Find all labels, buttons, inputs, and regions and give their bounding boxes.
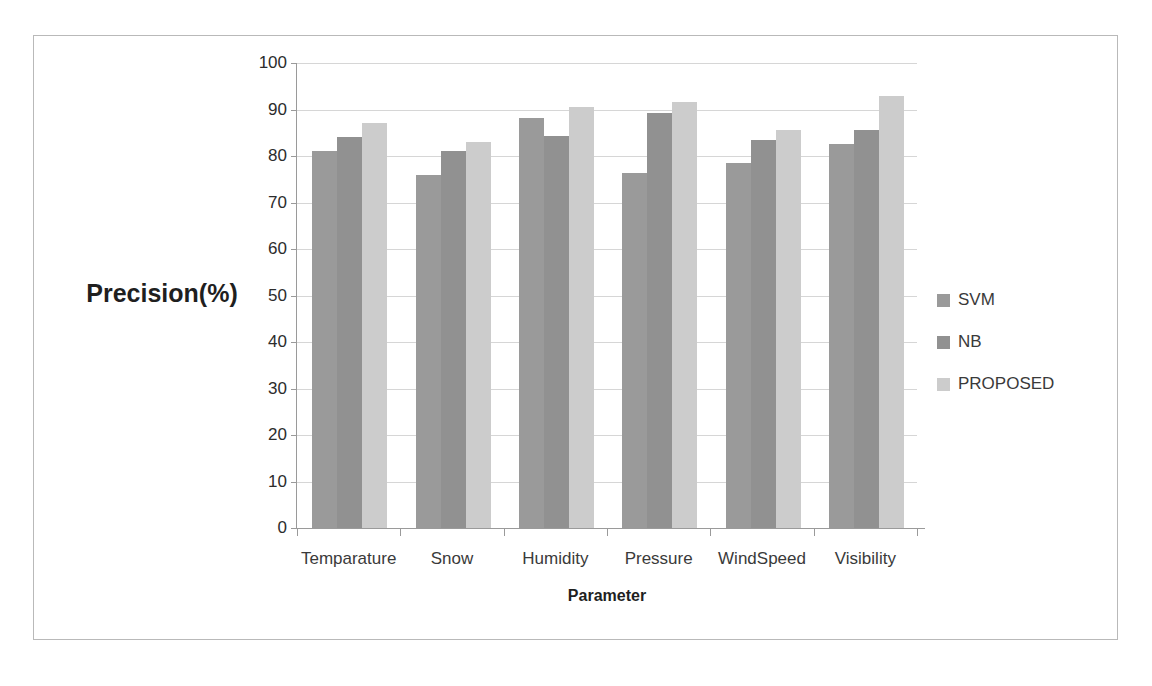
bar-svm-humidity[interactable] bbox=[519, 118, 544, 528]
x-axis-title: Parameter bbox=[297, 587, 917, 605]
x-axis-tick bbox=[297, 529, 298, 536]
y-axis-tick-label: 0 bbox=[278, 518, 287, 538]
y-axis-tick-label: 70 bbox=[268, 193, 287, 213]
y-axis-tick-label: 90 bbox=[268, 100, 287, 120]
y-axis-tick-label: 30 bbox=[268, 379, 287, 399]
bars-layer bbox=[297, 63, 917, 528]
legend-item-proposed[interactable]: PROPOSED bbox=[937, 363, 1107, 405]
bar-svm-pressure[interactable] bbox=[622, 173, 647, 528]
bar-svm-snow[interactable] bbox=[416, 175, 441, 528]
plot-area: 0102030405060708090100 TemparatureSnowHu… bbox=[297, 63, 917, 528]
y-axis-title: Precision(%) bbox=[72, 279, 252, 308]
bar-nb-visibility[interactable] bbox=[854, 130, 879, 529]
x-axis-tick bbox=[607, 529, 608, 536]
bar-svm-visibility[interactable] bbox=[829, 144, 854, 528]
legend-swatch-icon bbox=[937, 294, 950, 307]
x-axis-tick bbox=[814, 529, 815, 536]
legend-swatch-icon bbox=[937, 336, 950, 349]
bar-group bbox=[726, 63, 801, 528]
x-axis-tick-label: Temparature bbox=[301, 549, 396, 569]
bar-group bbox=[622, 63, 697, 528]
bar-svm-windspeed[interactable] bbox=[726, 163, 751, 528]
y-axis-tick-label: 40 bbox=[268, 332, 287, 352]
legend-item-svm[interactable]: SVM bbox=[937, 279, 1107, 321]
legend-label: SVM bbox=[958, 290, 995, 310]
legend-item-nb[interactable]: NB bbox=[937, 321, 1107, 363]
x-axis-line bbox=[291, 528, 925, 529]
x-axis-tick-label: Snow bbox=[431, 549, 474, 569]
bar-group bbox=[829, 63, 904, 528]
chart-legend: SVMNBPROPOSED bbox=[937, 279, 1107, 405]
x-axis-tick-label: WindSpeed bbox=[718, 549, 806, 569]
x-axis-tick-label: Visibility bbox=[835, 549, 896, 569]
y-axis-tick-label: 50 bbox=[268, 286, 287, 306]
chart-figure-frame: Precision(%) 0102030405060708090100 Temp… bbox=[33, 35, 1118, 640]
y-axis-tick-label: 80 bbox=[268, 146, 287, 166]
bar-proposed-snow[interactable] bbox=[466, 142, 491, 528]
legend-label: NB bbox=[958, 332, 982, 352]
x-axis-tick bbox=[917, 529, 918, 536]
bar-proposed-temparature[interactable] bbox=[362, 123, 387, 528]
bar-group bbox=[416, 63, 491, 528]
bar-svm-temparature[interactable] bbox=[312, 151, 337, 528]
y-axis-tick-label: 100 bbox=[259, 53, 287, 73]
bar-nb-pressure[interactable] bbox=[647, 113, 672, 528]
y-axis-tick-label: 10 bbox=[268, 472, 287, 492]
legend-swatch-icon bbox=[937, 378, 950, 391]
bar-nb-windspeed[interactable] bbox=[751, 140, 776, 528]
bar-proposed-visibility[interactable] bbox=[879, 96, 904, 528]
bar-group bbox=[312, 63, 387, 528]
y-axis-tick-label: 20 bbox=[268, 425, 287, 445]
x-axis-tick-label: Humidity bbox=[522, 549, 588, 569]
x-axis-tick-label: Pressure bbox=[625, 549, 693, 569]
bar-group bbox=[519, 63, 594, 528]
bar-proposed-pressure[interactable] bbox=[672, 102, 697, 528]
bar-proposed-windspeed[interactable] bbox=[776, 130, 801, 528]
bar-nb-humidity[interactable] bbox=[544, 136, 569, 528]
x-axis-tick bbox=[504, 529, 505, 536]
x-axis-tick bbox=[710, 529, 711, 536]
bar-nb-temparature[interactable] bbox=[337, 137, 362, 528]
x-axis-tick bbox=[400, 529, 401, 536]
legend-label: PROPOSED bbox=[958, 374, 1054, 394]
y-axis-tick-label: 60 bbox=[268, 239, 287, 259]
bar-proposed-humidity[interactable] bbox=[569, 107, 594, 528]
bar-nb-snow[interactable] bbox=[441, 151, 466, 528]
